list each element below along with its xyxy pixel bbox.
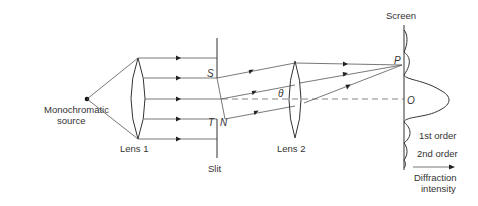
intensity-label-line2: intensity [421, 183, 456, 194]
second-order-label: 2nd order [417, 148, 458, 159]
first-order-label: 1st order [419, 130, 457, 141]
slit-label: Slit [208, 163, 222, 174]
point-S-label: S [207, 68, 214, 79]
source-label-line1: Monochromatic [44, 104, 109, 115]
point-T-label: T [208, 117, 215, 128]
converging-rays [295, 62, 402, 104]
source-ray-bottom [87, 99, 138, 139]
lens-2 [289, 61, 301, 138]
point-P-label: P [394, 55, 401, 66]
source-label-line2: source [57, 115, 86, 126]
diffraction-diagram: Monochromatic source Lens 1 Slit S T N θ [0, 0, 478, 206]
angle-theta-label: θ [278, 88, 284, 99]
lens-1-label: Lens 1 [120, 143, 149, 154]
source-ray-top [87, 58, 138, 99]
intensity-label-line1: Diffraction [414, 172, 457, 183]
intensity-arrowhead [449, 165, 455, 170]
lens-2-label: Lens 2 [277, 143, 306, 154]
screen-label: Screen [386, 10, 416, 21]
lens-1 [131, 58, 145, 139]
point-O-label: O [407, 95, 415, 106]
